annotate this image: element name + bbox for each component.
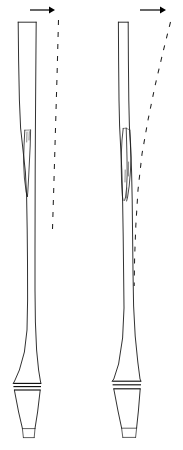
reference-line-left	[52, 20, 58, 232]
direction-arrow-left	[30, 6, 55, 13]
reference-line-right	[134, 22, 170, 286]
tapered-shaft-left	[13, 22, 41, 383]
figure-root	[0, 0, 183, 450]
right-panel	[112, 6, 170, 437]
collar-band-right	[112, 381, 141, 389]
left-panel	[13, 6, 58, 437]
figure-canvas	[0, 0, 183, 450]
direction-arrow-right	[140, 6, 166, 13]
tapered-shaft-right	[112, 22, 141, 381]
conical-foot-left	[14, 390, 40, 437]
conical-foot-right	[114, 389, 140, 437]
collar-band-left	[13, 383, 41, 390]
